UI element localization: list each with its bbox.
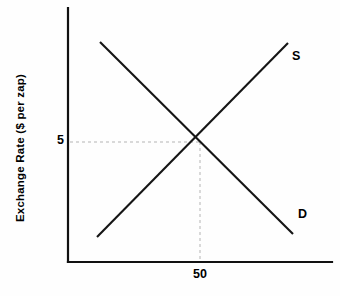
supply-curve bbox=[97, 43, 288, 237]
y-axis-tick-label-5: 5 bbox=[50, 134, 64, 147]
chart-plot-area bbox=[0, 0, 340, 296]
demand-curve-label: D bbox=[298, 208, 307, 221]
supply-curve-label: S bbox=[292, 50, 300, 63]
supply-demand-chart: Exchange Rate ($ per zap) 5 50 S D bbox=[0, 0, 340, 296]
x-axis-tick-label-50: 50 bbox=[185, 268, 215, 281]
